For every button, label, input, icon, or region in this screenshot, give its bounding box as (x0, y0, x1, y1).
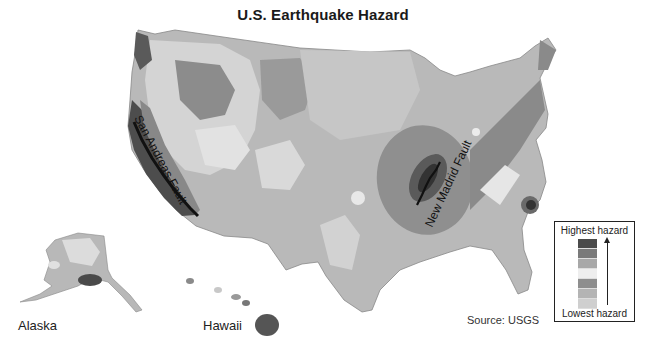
legend-swatches (578, 239, 597, 309)
arrow-up-icon (607, 242, 608, 305)
source-credit: Source: USGS (467, 314, 539, 326)
legend-highest-label: Highest hazard (555, 225, 634, 236)
hawaii-label: Hawaii (203, 318, 242, 333)
alaska-inset (20, 233, 142, 312)
legend-swatch-3 (578, 279, 597, 289)
legend-swatch-4 (578, 269, 597, 279)
hazard-legend: Highest hazard Lowest hazard (554, 221, 635, 322)
alaska-label: Alaska (18, 318, 57, 333)
legend-lowest-label: Lowest hazard (555, 308, 634, 319)
legend-swatch-5 (578, 259, 597, 269)
legend-swatch-6 (578, 249, 597, 259)
contiguous-us (128, 30, 556, 312)
legend-swatch-7 (578, 239, 597, 249)
legend-swatch-2 (578, 289, 597, 299)
us-hazard-map: San Andreas Fault New Madrid Fault (0, 0, 646, 344)
